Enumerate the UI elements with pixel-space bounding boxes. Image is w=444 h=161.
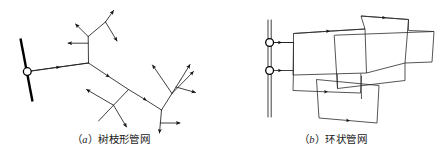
upper-branch-group <box>68 11 117 64</box>
caption-panel-a: （a）树枝形管网 <box>0 131 222 146</box>
descending-main-pipe <box>89 63 162 110</box>
ring-network-diagram <box>222 0 444 135</box>
source-node <box>23 68 31 76</box>
caption-panel-b: （b）环状管网 <box>222 131 444 146</box>
caption-a-text: 树枝形管网 <box>98 134 150 145</box>
cross-branch-group <box>87 90 129 128</box>
caption-a-close: ） <box>88 134 98 145</box>
figure-container: （a）树枝形管网 <box>0 0 444 161</box>
source-node-upper <box>266 39 274 47</box>
panel-ring-network: （b）环状管网 <box>222 0 444 161</box>
loop-mesh <box>293 16 434 123</box>
right-branch-group <box>153 65 196 134</box>
caption-a-open: （ <box>72 134 82 145</box>
caption-b-close: ） <box>315 134 325 145</box>
trunk-pipe <box>28 63 89 72</box>
caption-b-open: （ <box>299 134 309 145</box>
caption-b-text: 环状管网 <box>325 134 367 145</box>
source-node-lower <box>266 67 274 75</box>
panel-branched-network: （a）树枝形管网 <box>0 0 222 161</box>
branched-network-diagram <box>0 0 222 135</box>
